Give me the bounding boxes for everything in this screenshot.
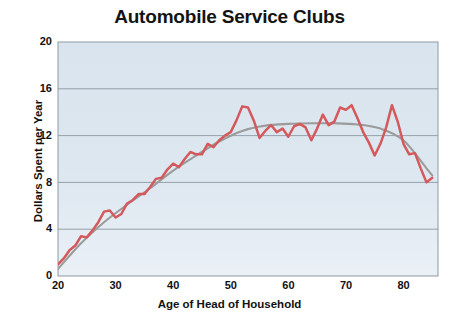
x-tick-60: 60 — [268, 279, 308, 291]
x-tick-30: 30 — [96, 279, 136, 291]
x-tick-80: 80 — [384, 279, 424, 291]
y-axis-label: Dollars Spent per Year — [32, 61, 44, 261]
x-tick-70: 70 — [326, 279, 366, 291]
x-tick-20: 20 — [38, 279, 78, 291]
x-axis-label: Age of Head of Household — [0, 298, 459, 310]
x-tick-50: 50 — [211, 279, 251, 291]
x-tick-40: 40 — [153, 279, 193, 291]
chart-container: Automobile Service Clubs 20 16 12 8 4 — [0, 0, 459, 332]
y-tick-20: 20 — [12, 35, 52, 47]
plot-area-background — [58, 42, 438, 276]
